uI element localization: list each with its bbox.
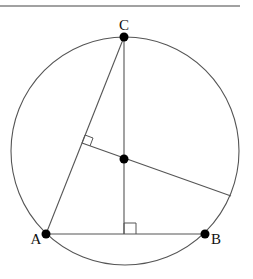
point-B: [201, 230, 210, 239]
point-H: [120, 155, 129, 164]
label-C: C: [119, 17, 129, 33]
right-angle-at-AB-marker: [124, 223, 136, 234]
label-A: A: [31, 231, 42, 247]
label-B: B: [211, 231, 221, 247]
right-angle-at-AC-marker: [82, 135, 93, 146]
geometry-figure: CAB: [0, 0, 253, 279]
point-A: [42, 230, 51, 239]
perpendicular-to-AC: [82, 143, 231, 196]
point-C: [120, 33, 129, 42]
